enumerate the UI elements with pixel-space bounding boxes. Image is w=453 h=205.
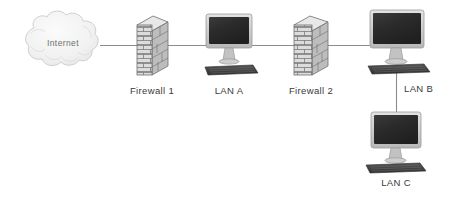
network-diagram: Internet Firewall 1 [0,0,453,205]
lanC-node: LAN C [366,112,426,188]
firewall2-node: Firewall 2 [289,16,333,96]
desktop-computer-icon [205,14,258,75]
lanA-label: LAN A [215,85,244,96]
desktop-computer-icon [366,112,426,173]
brick-wall-icon [294,16,328,75]
desktop-computer-icon [368,10,430,74]
lanB-node: LAN B [368,10,433,94]
lanC-label: LAN C [381,177,411,188]
internet-node: Internet [26,11,99,65]
firewall1-label: Firewall 1 [130,85,174,96]
firewall1-node: Firewall 1 [130,16,174,96]
internet-label: Internet [47,38,79,48]
lanA-node: LAN A [205,14,258,96]
lanB-label: LAN B [404,83,433,94]
brick-wall-icon [137,16,168,75]
diagram-canvas: Internet Firewall 1 [0,0,453,205]
firewall2-label: Firewall 2 [289,85,333,96]
